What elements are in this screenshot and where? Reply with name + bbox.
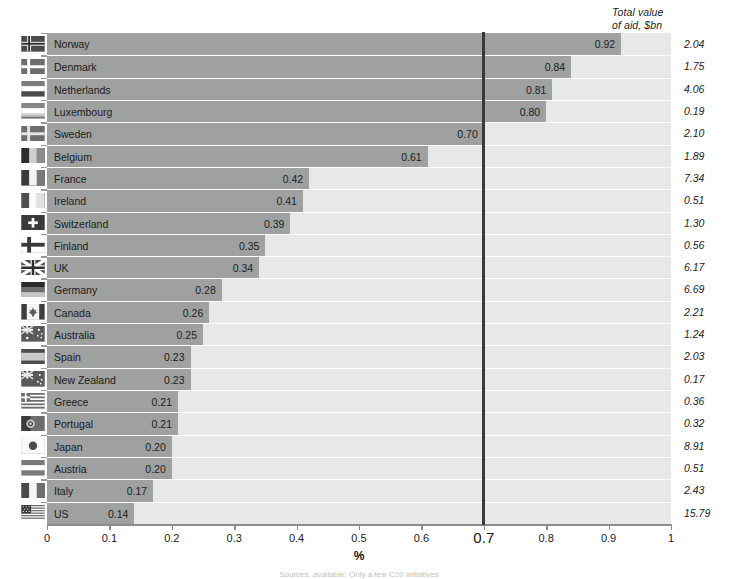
flag-cell [0,278,47,300]
axis-tick [297,524,298,530]
table-row[interactable]: Austria0.20 [47,457,671,479]
country-label: Australia [54,324,95,346]
threshold-line [482,32,485,525]
flag-us-icon [21,505,45,521]
flag-greece-icon [21,393,45,409]
table-row[interactable]: Portugal0.21 [47,412,671,434]
total-aid-value: 1.89 [671,145,732,167]
flag-cell [0,323,47,345]
axis-tick-label: 0.9 [601,532,616,544]
total-aid-value: 6.17 [671,256,732,278]
bar-value-label: 0.92 [47,33,621,55]
flag-cell [0,122,47,144]
flag-cell [0,435,47,457]
axis-tick-label: 0.8 [539,532,554,544]
flag-uk-icon [21,260,45,276]
country-label: Greece [54,391,88,413]
axis-tick [47,524,48,530]
x-axis: 00.10.20.30.40.50.60.70.80.91 [47,524,671,526]
table-row[interactable]: Germany0.28 [47,278,671,300]
flag-australia-icon [21,326,45,342]
country-label: France [54,168,87,190]
totals-header-line1: Total value [612,6,722,19]
axis-tick-label: 1 [668,532,674,544]
table-row[interactable]: US0.14 [47,502,671,524]
flag-cell [0,345,47,367]
flag-ireland-icon [21,193,45,209]
table-row[interactable]: Luxembourg0.80 [47,100,671,122]
flag-cell [0,457,47,479]
total-aid-value: 2.21 [671,301,732,323]
total-aid-value: 6.69 [671,278,732,300]
country-label: Portugal [54,413,93,435]
bar-value-label: 0.70 [47,123,484,145]
total-aid-value: 0.56 [671,234,732,256]
table-row[interactable]: Canada0.26 [47,301,671,323]
flag-sweden-icon [21,126,45,142]
table-row[interactable]: Spain0.23 [47,345,671,367]
flag-cell [0,368,47,390]
country-label: Italy [54,480,73,502]
table-row[interactable]: UK0.34 [47,256,671,278]
bar-value-label: 0.81 [47,79,552,101]
total-aid-value: 0.32 [671,412,732,434]
table-row[interactable]: Denmark0.84 [47,55,671,77]
country-label: New Zealand [54,369,116,391]
table-row[interactable]: Australia0.25 [47,323,671,345]
country-label: Germany [54,279,97,301]
total-aid-value: 0.36 [671,390,732,412]
axis-tick [671,524,672,530]
country-label: Japan [54,436,83,458]
total-aid-value: 1.30 [671,212,732,234]
flag-cell [0,390,47,412]
table-row[interactable]: Greece0.21 [47,390,671,412]
flag-canada-icon [21,304,45,320]
bar-value-label: 0.34 [47,257,259,279]
country-label: Denmark [54,56,97,78]
flag-cell [0,301,47,323]
axis-tick-label: 0.7 [473,529,494,546]
source-note: Sources: available; Only a few C20 initi… [47,570,671,579]
totals-column-header: Total value of aid, $bn [612,6,722,31]
total-aid-value: 1.75 [671,55,732,77]
table-row[interactable]: Switzerland0.39 [47,212,671,234]
axis-tick [546,524,547,530]
total-aid-value: 0.17 [671,368,732,390]
axis-tick-label: 0 [44,532,50,544]
table-row[interactable]: Belgium0.61 [47,145,671,167]
country-label: Luxembourg [54,101,112,123]
table-row[interactable]: Sweden0.70 [47,122,671,144]
table-row[interactable]: France0.42 [47,167,671,189]
table-row[interactable]: Ireland0.41 [47,189,671,211]
country-label: Switzerland [54,213,108,235]
total-aid-value: 2.03 [671,345,732,367]
totals-column: 2.041.754.060.192.101.897.340.511.300.56… [671,33,732,524]
table-row[interactable]: Japan0.20 [47,435,671,457]
axis-tick-label: 0.2 [164,532,179,544]
table-row[interactable]: Italy0.17 [47,479,671,501]
flag-austria-icon [21,460,45,476]
table-row[interactable]: New Zealand0.23 [47,368,671,390]
axis-tick-label: 0.5 [351,532,366,544]
plot-area: Norway0.92Denmark0.84Netherlands0.81Luxe… [47,33,671,524]
total-aid-value: 2.43 [671,479,732,501]
flag-cell [0,55,47,77]
flag-finland-icon [21,237,45,253]
flag-cell [0,167,47,189]
flag-denmark-icon [21,59,45,75]
flag-netherlands-icon [21,81,45,97]
table-row[interactable]: Norway0.92 [47,33,671,55]
flag-cell [0,502,47,524]
flag-germany-icon [21,282,45,298]
table-row[interactable]: Netherlands0.81 [47,78,671,100]
total-aid-value: 2.10 [671,122,732,144]
table-row[interactable]: Finland0.35 [47,234,671,256]
axis-tick [109,524,110,530]
flag-cell [0,479,47,501]
axis-tick-label: 0.6 [414,532,429,544]
bar-value-label: 0.61 [47,146,428,168]
total-aid-value: 0.51 [671,457,732,479]
axis-tick-label: 0.4 [289,532,304,544]
total-aid-value: 8.91 [671,435,732,457]
flag-italy-icon [21,483,45,499]
